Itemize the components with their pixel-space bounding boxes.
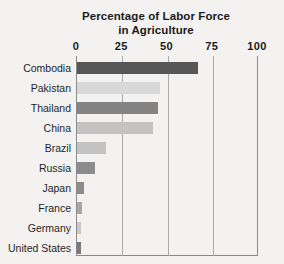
bar-row: Pakistan: [0, 78, 284, 98]
bar-germany: [77, 222, 81, 234]
bar-thailand: [77, 102, 158, 114]
x-tick-label-100: 100: [247, 40, 267, 52]
bar-row: Russia: [0, 158, 284, 178]
bar-russia: [77, 162, 95, 174]
bar-combodia: [77, 62, 198, 74]
chart-title-line-1: Percentage of Labor Force: [28, 9, 284, 23]
category-label-pakistan: Pakistan: [0, 78, 71, 98]
chart-title: Percentage of Labor Force in Agriculture: [0, 9, 284, 37]
bar-row: Japan: [0, 178, 284, 198]
bar-row: Thailand: [0, 98, 284, 118]
category-label-united-states: United States: [0, 238, 71, 258]
category-label-france: France: [0, 198, 71, 218]
category-label-germany: Germany: [0, 218, 71, 238]
x-tick-label-75: 75: [205, 40, 218, 52]
bar-brazil: [77, 142, 106, 154]
bar-row: Brazil: [0, 138, 284, 158]
bar-row: Germany: [0, 218, 284, 238]
x-tick-label-50: 50: [160, 40, 173, 52]
category-label-brazil: Brazil: [0, 138, 71, 158]
chart-title-line-2: in Agriculture: [28, 23, 284, 37]
category-label-thailand: Thailand: [0, 98, 71, 118]
category-label-combodia: Combodia: [0, 58, 71, 78]
bar-row: China: [0, 118, 284, 138]
x-tick-label-25: 25: [115, 40, 128, 52]
bar-china: [77, 122, 153, 134]
bar-row: United States: [0, 238, 284, 258]
category-label-china: China: [0, 118, 71, 138]
category-label-russia: Russia: [0, 158, 71, 178]
chart-figure: Percentage of Labor Force in Agriculture…: [0, 0, 284, 264]
bar-france: [77, 202, 82, 214]
bar-row: France: [0, 198, 284, 218]
x-tick-label-0: 0: [73, 40, 80, 52]
bar-row: Combodia: [0, 58, 284, 78]
category-label-japan: Japan: [0, 178, 71, 198]
bar-united-states: [77, 242, 81, 254]
bar-pakistan: [77, 82, 160, 94]
bar-japan: [77, 182, 84, 194]
